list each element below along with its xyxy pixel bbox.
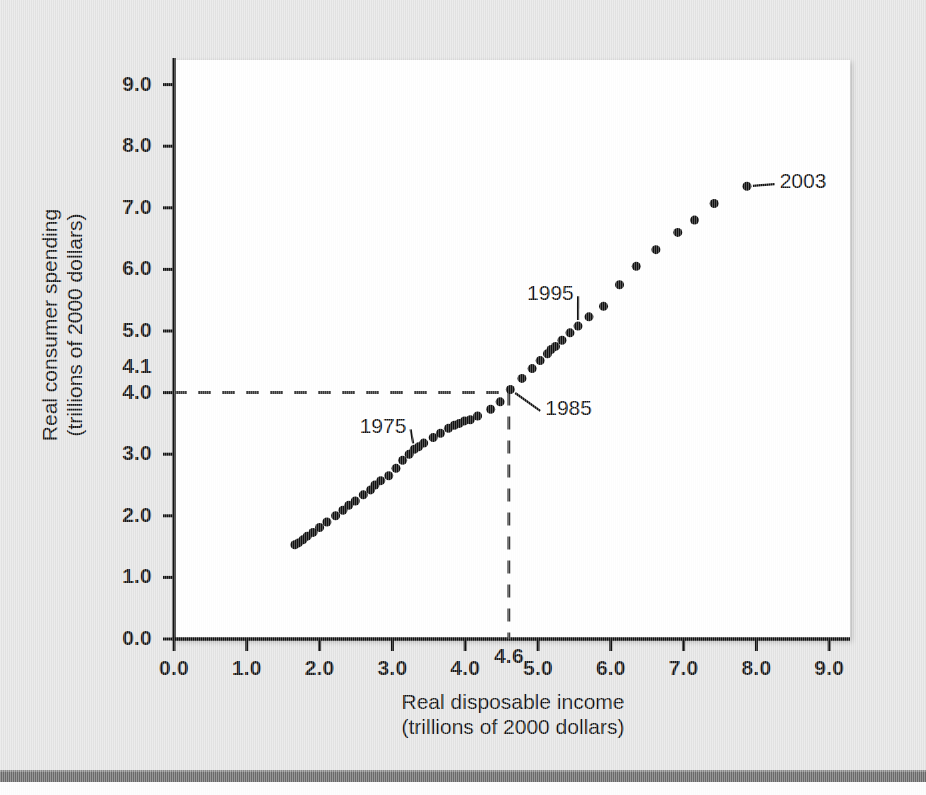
x-axis-title: Real disposable income (trillions of 200…: [213, 690, 813, 740]
y-tick-label: 3.0: [106, 441, 152, 465]
y-tick-label: 5.0: [106, 318, 152, 342]
x-tick-label: 1.0: [217, 656, 277, 680]
data-point: [322, 517, 331, 526]
bottom-rule-highlight: [0, 770, 926, 772]
data-point: [315, 523, 324, 532]
x-tick-label: 8.0: [726, 656, 786, 680]
data-point: [742, 182, 751, 191]
data-point: [486, 405, 495, 414]
y-tick-label: 2.0: [106, 503, 152, 527]
bottom-rule: [0, 770, 926, 782]
data-point: [376, 476, 385, 485]
data-point: [551, 342, 560, 351]
y-tick-label: 6.0: [106, 256, 152, 280]
year-annotation-2003: 2003: [780, 169, 827, 193]
y-tick-label: 9.0: [106, 72, 152, 96]
data-point: [584, 312, 593, 321]
data-point: [392, 464, 401, 473]
y-axis-title-sub: (trillions of 2000 dollars): [63, 65, 88, 585]
tick-marks: [163, 85, 829, 651]
x-tick-label: 2.0: [290, 656, 350, 680]
annotation-leader-line: [411, 429, 414, 443]
y-tick-label: 1.0: [106, 564, 152, 588]
x-reference-value-label: 4.6: [479, 644, 539, 668]
y-reference-value-label: 4.1: [106, 354, 152, 378]
data-point: [673, 228, 682, 237]
y-tick-label: 7.0: [106, 195, 152, 219]
data-point: [566, 328, 575, 337]
data-point: [436, 429, 445, 438]
data-point: [351, 497, 360, 506]
data-point: [496, 397, 505, 406]
y-axis-title-main: Real consumer spending: [38, 65, 63, 585]
data-points: [290, 182, 751, 550]
data-point: [506, 385, 515, 394]
year-annotation-1975: 1975: [360, 414, 407, 438]
x-axis-title-main: Real disposable income: [213, 690, 813, 715]
data-point: [473, 412, 482, 421]
y-tick-label: 4.0: [106, 380, 152, 404]
x-tick-label: 3.0: [362, 656, 422, 680]
data-point: [517, 374, 526, 383]
data-point: [419, 439, 428, 448]
x-tick-label: 9.0: [799, 656, 859, 680]
year-annotation-1995: 1995: [527, 281, 574, 305]
data-point: [528, 364, 537, 373]
page-edge: [0, 782, 926, 795]
data-point: [398, 456, 407, 465]
x-tick-label: 6.0: [581, 656, 641, 680]
data-point: [690, 216, 699, 225]
data-point: [615, 280, 624, 289]
data-point: [710, 199, 719, 208]
y-axis-title: Real consumer spending (trillions of 200…: [38, 65, 88, 585]
reference-lines: [174, 393, 509, 639]
y-tick-label: 0.0: [106, 626, 152, 650]
data-point: [558, 336, 567, 345]
annotation-leader-line: [515, 393, 540, 411]
data-point: [632, 262, 641, 271]
data-point: [384, 471, 393, 480]
x-tick-label: 7.0: [654, 656, 714, 680]
data-point: [599, 302, 608, 311]
annotation-leader-lines: [411, 184, 775, 443]
data-point: [536, 356, 545, 365]
data-point: [331, 511, 340, 520]
x-axis-title-sub: (trillions of 2000 dollars): [213, 715, 813, 740]
x-tick-label: 0.0: [144, 656, 204, 680]
data-point: [651, 245, 660, 254]
axes-group: [172, 58, 850, 639]
data-point: [574, 322, 583, 331]
y-tick-label: 8.0: [106, 133, 152, 157]
year-annotation-1985: 1985: [545, 396, 592, 420]
annotation-leader-line: [753, 184, 775, 186]
